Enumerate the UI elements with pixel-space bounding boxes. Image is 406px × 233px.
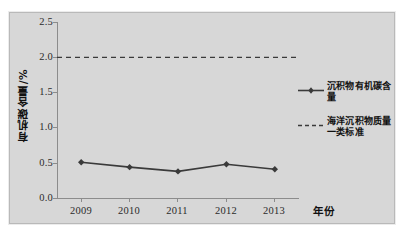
y-tick-label: 0.0 xyxy=(8,193,53,203)
legend-label: 海洋沉积物质量一类标准 xyxy=(327,116,396,138)
legend-label: 沉积物有机碳含量 xyxy=(327,81,396,103)
x-tick-label: 2012 xyxy=(204,205,248,217)
data-point-marker[interactable] xyxy=(78,159,84,165)
legend-item-sediment-organic-carbon[interactable]: 沉积物有机碳含量 xyxy=(298,81,396,103)
chart-legend: 沉积物有机碳含量 海洋沉积物质量一类标准 xyxy=(298,81,396,151)
y-tick-label: 0.5 xyxy=(8,158,53,168)
organic-carbon-line-series xyxy=(78,159,278,175)
x-tick-label: 2010 xyxy=(107,205,151,217)
x-axis-title: 年份 xyxy=(313,203,334,218)
data-point-marker[interactable] xyxy=(175,168,181,174)
legend-solid-line-marker-icon xyxy=(298,86,324,95)
y-tick-label: 2.5 xyxy=(8,17,53,27)
legend-dashed-line-icon xyxy=(298,121,324,130)
chart-figure: 2.5 2.0 1.5 1.0 0.5 0.0 2009 2010 2011 2… xyxy=(0,0,406,233)
data-point-marker[interactable] xyxy=(272,166,278,172)
y-tick-label: 2.0 xyxy=(8,52,53,62)
x-tick-label: 2011 xyxy=(155,205,199,217)
legend-item-marine-sediment-class-i-standard[interactable]: 海洋沉积物质量一类标准 xyxy=(298,116,396,138)
data-point-marker[interactable] xyxy=(126,164,132,170)
y-axis-title: 有机碳含量/% xyxy=(15,69,29,142)
x-tick-label: 2009 xyxy=(59,205,103,217)
series-layer xyxy=(57,22,299,199)
data-point-marker[interactable] xyxy=(223,161,229,167)
x-tick-label: 2013 xyxy=(252,205,296,217)
chart-frame: 2.5 2.0 1.5 1.0 0.5 0.0 2009 2010 2011 2… xyxy=(9,12,395,224)
